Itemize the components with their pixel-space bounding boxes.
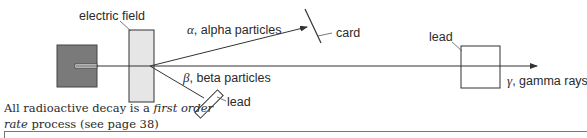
divider-line [4,131,587,132]
beta-label: β, beta particles [182,70,271,85]
caption-italic-1: first order [154,101,213,115]
caption-text-2: process (see page 38) [28,117,159,131]
electric-field-label: electric field [79,9,145,23]
card-barrier [305,9,321,43]
caption-text-1: All radioactive decay is a [4,101,154,115]
alpha-text: , alpha particles [194,23,282,37]
card-label: card [336,26,360,40]
divider-corner [4,131,5,138]
caption: All radioactive decay is a first order r… [4,100,213,132]
gamma-label: γ, gamma rays [507,73,587,88]
beta-text: , beta particles [189,71,270,85]
caption-italic-2: rate [4,117,28,131]
lead-label-gamma: lead [429,30,453,44]
card-leader [318,33,332,36]
alpha-label: α, alpha particles [187,22,281,37]
lead-label-beta: lead [227,95,251,109]
gamma-text: , gamma rays [512,74,587,88]
lead-block-gamma [461,46,500,88]
